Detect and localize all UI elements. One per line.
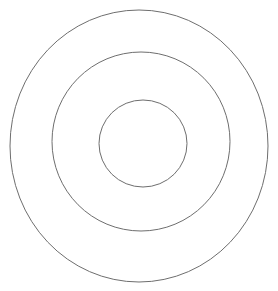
figure-background — [0, 0, 278, 291]
figure-canvas — [0, 0, 278, 291]
concentric-circles-figure — [0, 0, 278, 291]
